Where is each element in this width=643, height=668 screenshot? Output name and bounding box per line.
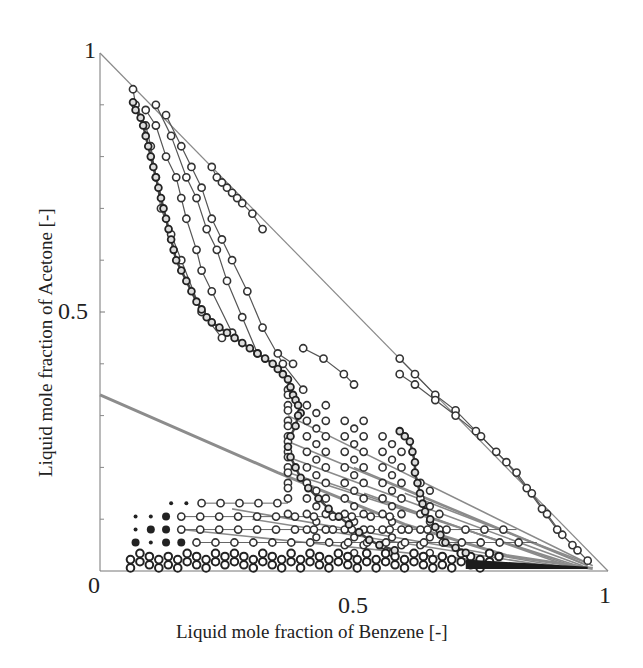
data-point [367,513,374,520]
data-point [313,487,320,494]
data-point [305,485,312,492]
data-point [340,371,347,378]
filled-point [147,526,155,534]
data-point [341,448,348,455]
data-point [322,433,329,440]
data-point [274,500,281,507]
data-point [289,360,296,367]
data-point [202,564,210,572]
data-point [363,558,371,566]
data-point [193,246,200,253]
data-point [389,456,396,463]
data-point [183,558,191,566]
data-point [208,288,215,295]
data-point [287,558,295,566]
data-point [244,288,251,295]
data-point [198,184,205,191]
data-point [345,539,352,546]
data-point [410,558,418,566]
data-point [231,550,239,558]
data-point [203,226,210,233]
data-point [152,101,159,108]
data-point [427,516,434,523]
data-point [356,529,363,536]
data-point [513,469,520,476]
data-point [538,505,545,512]
data-point [462,549,469,556]
small-dot [134,515,138,519]
data-point [300,386,307,393]
data-point [442,539,449,546]
data-point [325,564,333,572]
data-point [372,556,380,564]
data-point [360,495,367,502]
data-point [253,526,260,533]
data-point [322,479,329,486]
data-point [429,564,437,572]
data-point [235,526,242,533]
data-point [228,257,235,264]
data-point [178,143,185,150]
data-point [303,495,310,502]
data-point [162,112,169,119]
data-point [398,464,405,471]
data-point [158,195,165,202]
data-point [202,556,210,564]
data-point [351,425,358,432]
data-point [178,267,185,274]
y-tick-1: 1 [84,38,96,62]
data-point [297,474,304,481]
data-point [178,194,185,201]
data-point [287,550,295,558]
data-point [127,556,135,564]
small-dot [184,501,188,505]
data-point [515,539,522,546]
data-point [412,469,419,476]
data-point [391,561,399,569]
data-point [183,215,190,222]
data-point [212,558,220,566]
data-point [341,495,348,502]
data-point [178,526,185,533]
data-point [246,345,253,352]
data-point [303,510,310,517]
data-point [316,561,324,569]
data-point [360,417,367,424]
data-point [448,564,456,572]
data-point [208,163,215,170]
data-point [360,464,367,471]
data-point [382,550,390,558]
data-point [344,561,352,569]
data-point [168,236,175,243]
data-point [322,495,329,502]
data-point [137,114,144,121]
data-point [292,423,299,430]
data-point [391,547,398,554]
data-point [379,448,386,455]
data-point [363,550,371,558]
data-point [325,505,332,512]
data-point [142,132,149,139]
data-point [284,469,291,476]
data-point [412,459,419,466]
data-point [351,487,358,494]
data-point [216,513,223,520]
data-point [213,246,220,253]
data-point [224,329,231,336]
data-point [424,526,431,533]
data-point [379,526,386,533]
data-point [346,521,353,528]
data-point [150,164,157,171]
data-point [163,215,170,222]
data-point [396,371,403,378]
data-point [436,510,443,517]
data-point [231,558,239,566]
data-point [322,402,329,409]
data-point [493,448,500,455]
data-point [306,550,314,558]
data-point [360,510,367,517]
data-point [503,459,510,466]
data-point [341,417,348,424]
data-point [174,564,182,572]
data-point [173,257,180,264]
